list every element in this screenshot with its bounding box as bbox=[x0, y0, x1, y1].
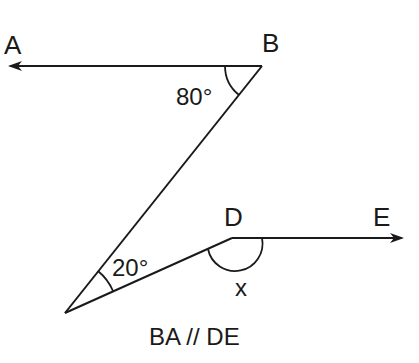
segment-b-vertex bbox=[65, 66, 262, 313]
caption-parallel: BA // DE bbox=[149, 323, 240, 350]
label-point-d: D bbox=[224, 202, 243, 232]
label-point-b: B bbox=[262, 28, 279, 58]
segment-vertex-d bbox=[65, 238, 232, 313]
angle-arc-d bbox=[208, 238, 263, 271]
angle-arc-b bbox=[225, 66, 239, 95]
geometry-diagram: A B D E 80° 20° x BA // DE bbox=[0, 0, 419, 363]
label-point-e: E bbox=[373, 202, 390, 232]
label-angle-b: 80° bbox=[176, 83, 212, 110]
angle-arc-vertex bbox=[98, 271, 113, 291]
label-angle-vertex: 20° bbox=[112, 254, 148, 281]
label-point-a: A bbox=[4, 30, 22, 60]
label-angle-x: x bbox=[235, 274, 247, 301]
